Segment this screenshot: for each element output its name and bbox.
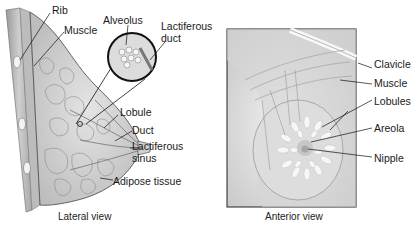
label-areola: Areola (374, 122, 404, 134)
label-rib: Rib (52, 4, 68, 16)
label-lactiferous-duct-1: Lactiferous (161, 20, 212, 32)
label-lactiferous-sinus-1: Lactiferous (132, 140, 183, 152)
breast-anatomy-diagram: Rib Muscle Alveolus Lactiferous duct Lob… (0, 0, 418, 230)
label-lactiferous-duct-2: duct (161, 32, 181, 44)
label-adipose-tissue: Adipose tissue (113, 175, 181, 187)
caption-anterior-view: Anterior view (265, 211, 323, 222)
label-muscle-anterior: Muscle (374, 77, 407, 89)
label-lactiferous-sinus-2: sinus (132, 152, 157, 164)
label-nipple: Nipple (374, 152, 404, 164)
label-alveolus: Alveolus (103, 14, 143, 26)
label-clavicle: Clavicle (374, 58, 411, 70)
label-lobules: Lobules (374, 95, 411, 107)
label-muscle-lateral: Muscle (64, 24, 97, 36)
label-duct: Duct (132, 124, 154, 136)
caption-lateral-view: Lateral view (58, 211, 111, 222)
label-lobule: Lobule (120, 106, 152, 118)
lateral-view-illustration (0, 0, 418, 230)
